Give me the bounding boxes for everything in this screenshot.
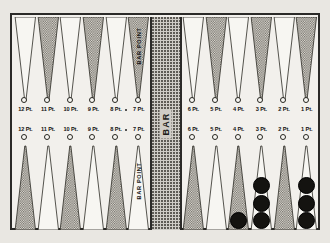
point-label: 8 Pt. <box>105 106 128 112</box>
point-top-right-3[interactable]: 3 Pt. <box>250 17 273 121</box>
point-tip-marker <box>112 134 118 140</box>
point-label: 8 Pt. <box>105 126 128 132</box>
point-label: 4 Pt. <box>227 126 250 132</box>
quadrant-top-left: 12 Pt.11 Pt.10 Pt.9 Pt.8 Pt.7 Pt.BAR POI… <box>14 17 150 121</box>
point-bottom-left-7[interactable]: 7 Pt.BAR POINT <box>127 126 150 230</box>
point-triangle <box>105 17 128 103</box>
backgammon-board-figure: 12 Pt.11 Pt.10 Pt.9 Pt.8 Pt.7 Pt.BAR POI… <box>0 0 330 243</box>
point-label: 9 Pt. <box>82 126 105 132</box>
point-label: 11 Pt. <box>37 106 60 112</box>
point-top-right-1[interactable]: 1 Pt. <box>295 17 318 121</box>
point-bottom-left-11[interactable]: 11 Pt. <box>37 126 60 230</box>
point-top-right-4[interactable]: 4 Pt. <box>227 17 250 121</box>
point-tip-marker <box>67 134 73 140</box>
point-triangle <box>273 144 296 230</box>
point-label: 3 Pt. <box>250 126 273 132</box>
point-triangle <box>59 17 82 103</box>
point-triangle <box>82 17 105 103</box>
point-label: 6 Pt. <box>182 106 205 112</box>
point-tip-marker <box>135 97 141 103</box>
bar-point-label: BAR POINT <box>136 27 142 64</box>
point-label: 10 Pt. <box>59 126 82 132</box>
bar-label: BAR <box>160 109 172 138</box>
point-tip-marker <box>303 97 309 103</box>
point-triangle <box>82 144 105 230</box>
point-top-left-12[interactable]: 12 Pt. <box>14 17 37 121</box>
point-triangle <box>273 17 296 103</box>
point-label: 2 Pt. <box>273 106 296 112</box>
point-triangle <box>59 144 82 230</box>
point-triangle <box>250 17 273 103</box>
point-label: 5 Pt. <box>205 106 228 112</box>
point-label: 4 Pt. <box>227 106 250 112</box>
point-top-right-2[interactable]: 2 Pt. <box>273 17 296 121</box>
point-top-left-10[interactable]: 10 Pt. <box>59 17 82 121</box>
point-bottom-left-10[interactable]: 10 Pt. <box>59 126 82 230</box>
point-bottom-left-9[interactable]: 9 Pt. <box>82 126 105 230</box>
point-label: 12 Pt. <box>14 126 37 132</box>
point-tip-marker <box>212 97 218 103</box>
point-top-left-11[interactable]: 11 Pt. <box>37 17 60 121</box>
point-tip-marker <box>67 97 73 103</box>
point-label: 1 Pt. <box>295 126 318 132</box>
point-top-right-6[interactable]: 6 Pt. <box>182 17 205 121</box>
quadrant-bottom-right: 6 Pt.5 Pt.4 Pt.3 Pt.2 Pt.1 Pt. <box>182 126 318 230</box>
point-triangle <box>14 144 37 230</box>
point-triangle <box>182 17 205 103</box>
checker[interactable] <box>298 195 315 212</box>
point-tip-marker <box>89 134 95 140</box>
point-bottom-right-1[interactable]: 1 Pt. <box>295 126 318 230</box>
point-label: 12 Pt. <box>14 106 37 112</box>
point-label: 3 Pt. <box>250 106 273 112</box>
point-top-left-7[interactable]: 7 Pt.BAR POINT <box>127 17 150 121</box>
point-label: 5 Pt. <box>205 126 228 132</box>
point-label: 10 Pt. <box>59 106 82 112</box>
point-bottom-right-6[interactable]: 6 Pt. <box>182 126 205 230</box>
point-tip-marker <box>44 134 50 140</box>
point-triangle <box>205 17 228 103</box>
point-tip-marker <box>135 134 141 140</box>
point-label: 1 Pt. <box>295 106 318 112</box>
point-triangle <box>14 17 37 103</box>
checker[interactable] <box>253 212 270 229</box>
point-triangle <box>182 144 205 230</box>
point-tip-marker <box>112 97 118 103</box>
checker[interactable] <box>253 195 270 212</box>
point-label: 6 Pt. <box>182 126 205 132</box>
bar-point-label: BAR POINT <box>136 162 142 199</box>
point-tip-marker <box>235 134 241 140</box>
point-tip-marker <box>189 134 195 140</box>
point-bottom-right-5[interactable]: 5 Pt. <box>205 126 228 230</box>
point-bottom-right-3[interactable]: 3 Pt. <box>250 126 273 230</box>
point-label: 7 Pt. <box>127 106 150 112</box>
point-triangle <box>105 144 128 230</box>
board-frame: 12 Pt.11 Pt.10 Pt.9 Pt.8 Pt.7 Pt.BAR POI… <box>10 13 320 230</box>
point-top-right-5[interactable]: 5 Pt. <box>205 17 228 121</box>
point-triangle <box>205 144 228 230</box>
point-label: 9 Pt. <box>82 106 105 112</box>
point-tip-marker <box>21 134 27 140</box>
point-tip-marker <box>44 97 50 103</box>
point-tip-marker <box>257 134 263 140</box>
point-bottom-right-2[interactable]: 2 Pt. <box>273 126 296 230</box>
point-tip-marker <box>235 97 241 103</box>
point-tip-marker <box>280 134 286 140</box>
point-bottom-right-4[interactable]: 4 Pt. <box>227 126 250 230</box>
point-tip-marker <box>280 97 286 103</box>
bar-divider: BAR <box>150 17 182 230</box>
point-label: 2 Pt. <box>273 126 296 132</box>
point-top-left-8[interactable]: 8 Pt. <box>105 17 128 121</box>
point-triangle <box>37 144 60 230</box>
point-bottom-left-12[interactable]: 12 Pt. <box>14 126 37 230</box>
point-triangle <box>295 17 318 103</box>
point-triangle <box>37 17 60 103</box>
point-tip-marker <box>303 134 309 140</box>
point-top-left-9[interactable]: 9 Pt. <box>82 17 105 121</box>
point-triangle <box>227 17 250 103</box>
point-bottom-left-8[interactable]: 8 Pt. <box>105 126 128 230</box>
point-tip-marker <box>212 134 218 140</box>
point-label: 11 Pt. <box>37 126 60 132</box>
checker[interactable] <box>253 177 270 194</box>
quadrant-bottom-left: 12 Pt.11 Pt.10 Pt.9 Pt.8 Pt.7 Pt.BAR POI… <box>14 126 150 230</box>
point-label: 7 Pt. <box>127 126 150 132</box>
